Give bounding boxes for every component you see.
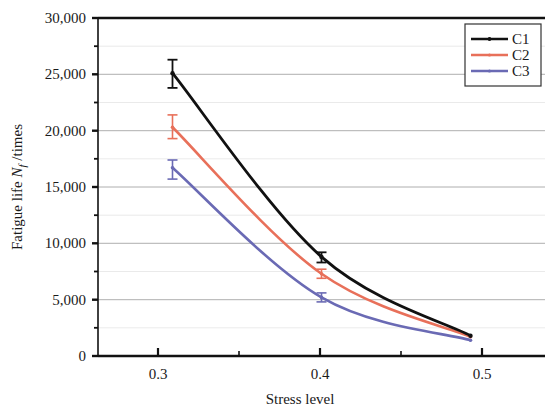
y-tick-label: 10,000 <box>45 235 86 251</box>
x-tick-label: 0.3 <box>149 366 168 382</box>
y-tick-label: 0 <box>79 348 87 364</box>
y-tick-label: 25,000 <box>45 66 86 82</box>
data-point <box>320 272 324 276</box>
data-point <box>171 126 175 130</box>
legend: C1 C2 C3 <box>465 24 541 86</box>
x-tick-label: 0.5 <box>473 366 492 382</box>
data-point <box>320 296 324 300</box>
x-axis-title: Stress level <box>266 391 335 407</box>
legend-label-c3: C3 <box>512 63 530 79</box>
y-axis-title-prefix: Fatigue life <box>9 178 25 250</box>
y-tick-label: 15,000 <box>45 179 86 195</box>
data-point <box>319 255 323 259</box>
data-point <box>171 166 175 170</box>
legend-marker-c3 <box>488 69 491 72</box>
data-point <box>469 338 473 342</box>
y-axis-title-suffix: /times <box>9 124 25 165</box>
data-point <box>170 71 174 75</box>
x-tick-label: 0.4 <box>311 366 330 382</box>
data-point <box>468 334 472 338</box>
legend-marker-c2 <box>488 53 491 56</box>
y-tick-label: 30,000 <box>45 10 86 26</box>
chart-figure: 30,000 25,000 20,000 15,000 10,000 5,000… <box>0 0 549 414</box>
y-tick-label: 20,000 <box>45 123 86 139</box>
y-tick-label: 5,000 <box>52 292 86 308</box>
legend-label-c1: C1 <box>512 31 530 47</box>
legend-label-c2: C2 <box>512 47 530 63</box>
fatigue-life-line-chart: 30,000 25,000 20,000 15,000 10,000 5,000… <box>0 0 549 414</box>
legend-marker-c1 <box>488 37 492 41</box>
